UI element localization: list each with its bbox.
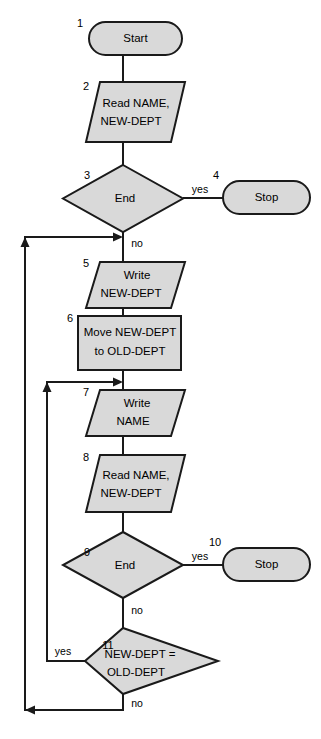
branch-label-d11-yes: yes [55,645,71,657]
branch-label-d3-no: no [131,237,143,249]
arrowhead-inner-loop-corner-up [43,382,52,392]
node-label-write-name-line-2: NAME [116,415,150,427]
node-label-compare-line-2: OLD-DEPT [107,666,165,678]
node-label-read-1-line-1: Read NAME, [102,97,169,109]
node-6-move-new-dept: 6 Move NEW-DEPT to OLD-DEPT [67,312,181,370]
node-label-write-new-dept-line-2: NEW-DEPT [100,287,161,299]
rectangle-shape-move [78,316,181,370]
arrowhead-outer-loop-bottom-left [25,706,35,715]
node-9-end-decision: 9 End [63,532,183,598]
branch-label-d9-yes: yes [192,550,208,562]
node-label-move-line-2: to OLD-DEPT [95,345,166,357]
node-label-move-line-1: Move NEW-DEPT [84,326,176,338]
node-2-read-name-new-dept: 2 Read NAME, NEW-DEPT [83,80,185,142]
branch-label-d9-no: no [131,604,143,616]
node-label-start: Start [123,32,148,44]
node-number-7: 7 [83,386,89,398]
node-4-stop: 4 Stop [213,169,310,214]
branch-label-d3-yes: yes [192,183,208,195]
flowchart-diagram: 1 Start 2 Read NAME, NEW-DEPT 3 End 4 St… [0,0,321,739]
node-label-end-2: End [115,559,135,571]
node-number-8: 8 [83,451,89,463]
node-11-new-dept-equals-old-dept: 11 NEW-DEPT = OLD-DEPT [85,628,218,694]
node-number-3: 3 [84,169,90,181]
node-number-2: 2 [83,80,89,92]
parallelogram-shape-read-1 [86,82,185,142]
arrowhead-outer-loop-corner-up [21,237,30,247]
arrowhead-inner-loop-into-n7 [113,378,123,387]
node-number-4: 4 [213,169,219,181]
node-10-stop: 10 Stop [209,536,310,581]
parallelogram-shape-read-2 [86,455,185,512]
branch-label-d11-no: no [131,697,143,709]
node-number-5: 5 [83,257,89,269]
node-label-read-2-line-2: NEW-DEPT [100,487,161,499]
node-label-read-2-line-1: Read NAME, [102,469,169,481]
node-label-write-new-dept-line-1: Write [124,269,151,281]
diamond-shape-compare [85,628,218,694]
node-label-stop-2: Stop [255,558,279,570]
node-label-end-1: End [115,192,135,204]
node-7-write-name: 7 Write NAME [83,386,185,436]
node-3-end-decision: 3 End [63,165,183,232]
arrowhead-outer-loop-into-n5 [113,233,123,242]
node-8-read-name-new-dept: 8 Read NAME, NEW-DEPT [83,451,185,512]
node-label-read-1-line-2: NEW-DEPT [100,115,161,127]
node-label-stop-1: Stop [255,191,279,203]
node-number-1: 1 [77,17,83,29]
node-number-10: 10 [209,536,221,548]
node-label-compare-line-1: NEW-DEPT = [105,648,176,660]
node-5-write-new-dept: 5 Write NEW-DEPT [83,257,185,308]
node-number-6: 6 [67,312,73,324]
node-number-9: 9 [84,546,90,558]
node-label-write-name-line-1: Write [124,397,151,409]
node-1-start: 1 Start [77,17,182,55]
flowchart-canvas: 1 Start 2 Read NAME, NEW-DEPT 3 End 4 St… [0,0,321,739]
